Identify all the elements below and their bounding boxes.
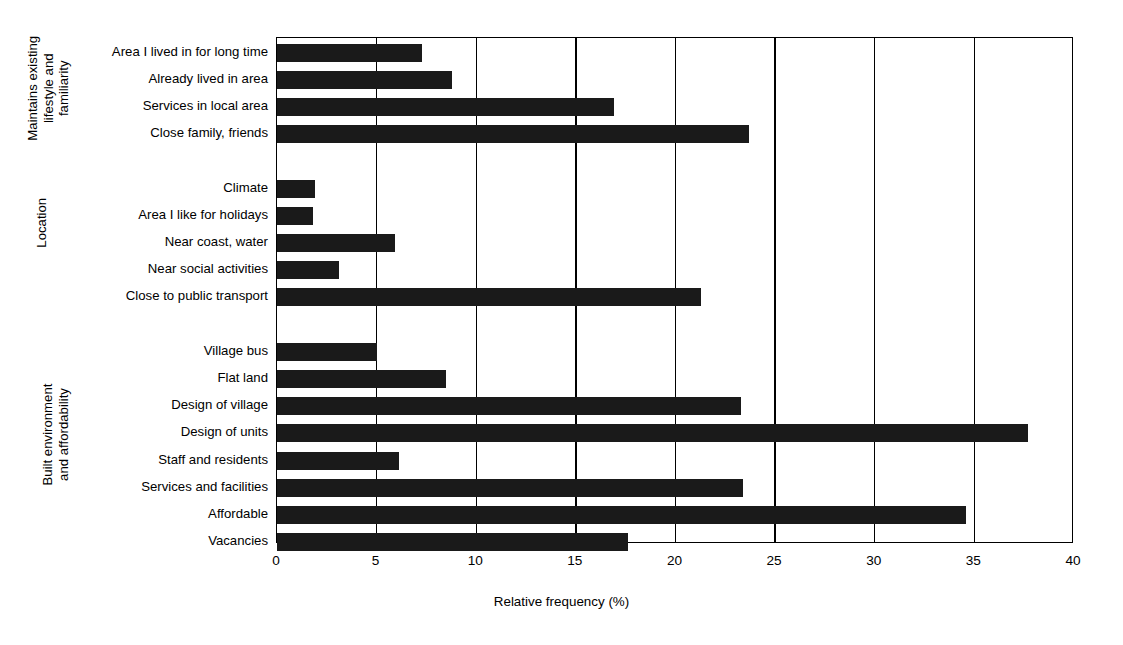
bar (277, 180, 315, 198)
category-label: Close to public transport (8, 289, 268, 303)
bar (277, 125, 749, 143)
gridline-35 (974, 38, 975, 542)
x-tick-label-40: 40 (1043, 553, 1103, 568)
bar (277, 424, 1028, 442)
group-label: Location (34, 155, 50, 291)
bar (277, 288, 701, 306)
bar (277, 71, 452, 89)
gridline-30 (874, 38, 875, 542)
bar (277, 343, 377, 361)
bar (277, 234, 395, 252)
x-tick-label-0: 0 (246, 553, 306, 568)
x-tick-label-35: 35 (943, 553, 1003, 568)
x-tick-label-30: 30 (844, 553, 904, 568)
group-label: Maintains existing lifestyle and familia… (25, 34, 72, 143)
x-tick-label-20: 20 (645, 553, 705, 568)
x-tick-label-15: 15 (545, 553, 605, 568)
gridline-25 (774, 38, 775, 542)
bar (277, 452, 399, 470)
bar (277, 261, 339, 279)
bar (277, 370, 446, 388)
plot-area (276, 37, 1073, 543)
x-axis-title: Relative frequency (%) (0, 594, 1123, 609)
bar (277, 44, 422, 62)
bar (277, 207, 313, 225)
bar (277, 506, 966, 524)
x-tick-label-10: 10 (445, 553, 505, 568)
group-label: Built environment and affordability (41, 326, 72, 544)
bar (277, 533, 628, 551)
bar (277, 479, 743, 497)
horizontal-bar-chart: 0510152025303540Area I lived in for long… (0, 0, 1123, 645)
x-tick-label-25: 25 (744, 553, 804, 568)
bar (277, 397, 741, 415)
x-tick-label-5: 5 (346, 553, 406, 568)
bar (277, 98, 614, 116)
